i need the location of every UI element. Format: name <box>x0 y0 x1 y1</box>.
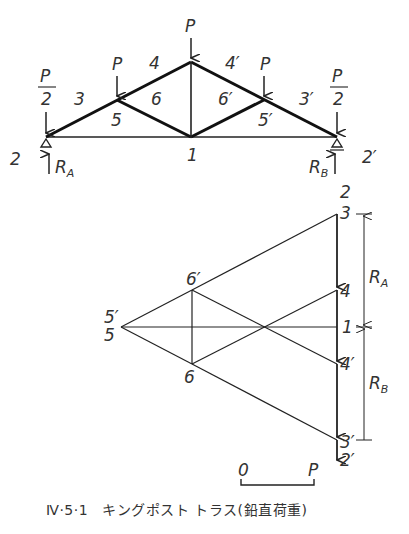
figure-title: キングポスト トラス(鉛直荷重) <box>102 502 307 518</box>
region-label-1: 1 <box>187 145 198 165</box>
point-label-5: 5 <box>104 325 115 345</box>
dim-label-rb: RB <box>369 373 388 396</box>
force-line-5-6 <box>121 327 192 364</box>
region-label-6-prime: 6′ <box>218 89 233 109</box>
scale-bar: 0 P <box>238 460 319 485</box>
scale-label-unit: P <box>308 460 319 480</box>
load-label-left-end-numerator: P <box>40 66 51 86</box>
point-label-5-prime: 5′ <box>104 307 119 327</box>
dim-label-ra: RA <box>369 267 388 290</box>
point-label-2: 2 <box>340 182 351 202</box>
point-label-4-prime: 4′ <box>340 354 355 374</box>
load-label-right-end-numerator: P <box>332 66 343 86</box>
point-label-6-prime: 6′ <box>186 269 201 289</box>
load-label-right-mid: P <box>260 54 271 74</box>
scale-line <box>241 479 314 485</box>
force-diagram: 2 3 4 1 4′ 3′ 2′ 5′ 5 6′ 6 RA RB <box>104 182 388 470</box>
point-label-6: 6 <box>184 367 195 387</box>
right-support-icon <box>332 139 342 147</box>
reaction-label-right: RB <box>309 157 328 180</box>
point-label-3-prime: 3′ <box>340 432 355 452</box>
region-label-5-prime: 5′ <box>258 110 273 130</box>
left-support-icon <box>41 139 51 147</box>
point-label-1: 1 <box>342 317 353 337</box>
point-label-2-prime: 2′ <box>340 450 355 470</box>
force-line-3-6p <box>192 214 337 290</box>
region-label-4: 4 <box>149 53 160 73</box>
figure-caption: Ⅳ·5·1キングポスト トラス(鉛直荷重) <box>46 499 322 519</box>
region-label-2-prime: 2′ <box>362 147 377 167</box>
region-label-6: 6 <box>151 89 162 109</box>
load-label-left-end-denominator: 2 <box>41 89 52 109</box>
load-label-right-end-denominator: 2 <box>333 89 344 109</box>
region-label-3-prime: 3′ <box>299 89 314 109</box>
truss: P P P P 2 P 2 2 3 4 4′ 3′ 2′ 5 6 6′ 5′ 1… <box>10 16 377 180</box>
region-label-4-prime: 4′ <box>225 53 240 73</box>
reaction-label-left: RA <box>55 157 74 180</box>
region-label-3: 3 <box>74 89 85 109</box>
force-line-6-3p <box>192 364 337 440</box>
figure-number: Ⅳ·5·1 <box>46 502 88 518</box>
point-label-3: 3 <box>340 203 351 223</box>
king-post-truss-diagram: P P P P 2 P 2 2 3 4 4′ 3′ 2′ 5 6 6′ 5′ 1… <box>0 0 409 534</box>
point-label-4: 4 <box>340 281 351 301</box>
region-label-5: 5 <box>111 110 122 130</box>
scale-label-zero: 0 <box>238 460 249 480</box>
load-label-apex: P <box>185 16 196 36</box>
load-label-left-mid: P <box>112 54 123 74</box>
region-label-2: 2 <box>10 149 21 169</box>
force-line-6p-5 <box>121 290 192 327</box>
